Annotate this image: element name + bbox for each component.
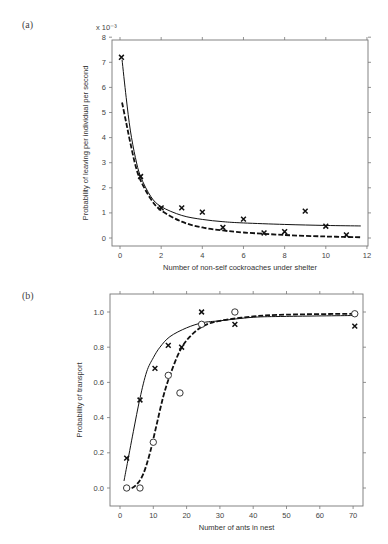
- data-point-circle: [150, 439, 156, 445]
- fit-curve-solid: [124, 316, 353, 481]
- fit-curve-dashed: [125, 314, 353, 489]
- y-tick-label: 0.0: [94, 484, 104, 493]
- data-point-circle: [137, 485, 143, 491]
- x-tick-label: 20: [182, 511, 190, 520]
- y-tick-label: 0.8: [94, 343, 104, 352]
- data-point-circle: [198, 321, 204, 327]
- x-axis-title: Number of ants in nest: [199, 523, 275, 532]
- y-tick-label: 1.0: [94, 308, 104, 317]
- data-point-cross: [352, 324, 357, 329]
- x-tick-label: 10: [149, 511, 157, 520]
- data-point-cross: [199, 310, 204, 315]
- x-tick-label: 70: [349, 511, 357, 520]
- x-tick-label: 50: [282, 511, 290, 520]
- data-point-circle: [123, 485, 129, 491]
- x-tick-label: 30: [216, 511, 224, 520]
- y-tick-label: 0.6: [94, 378, 104, 387]
- data-point-circle: [177, 390, 183, 396]
- data-point-circle: [352, 311, 358, 317]
- y-tick-label: 0.4: [94, 413, 104, 422]
- x-tick-label: 40: [249, 511, 257, 520]
- data-point-circle: [232, 309, 238, 315]
- y-axis-title: Probability of transport: [75, 362, 84, 438]
- x-tick-label: 60: [316, 511, 324, 520]
- data-point-cross: [166, 343, 171, 348]
- y-tick-label: 0.2: [94, 448, 104, 457]
- chart-b-ants: 0102030405060700.00.20.40.60.81.0Number …: [0, 0, 388, 544]
- data-point-circle: [165, 372, 171, 378]
- x-tick-label: 0: [118, 511, 122, 520]
- data-point-cross: [153, 366, 158, 371]
- data-point-cross: [232, 322, 237, 327]
